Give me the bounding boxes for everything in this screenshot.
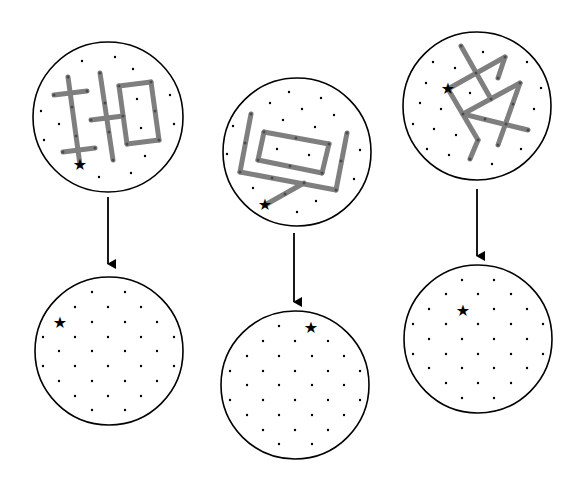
circle-boundary — [404, 265, 552, 413]
circle-boundary — [221, 311, 369, 459]
panel-left-top: ★ — [33, 42, 183, 192]
star-icon: ★ — [73, 155, 87, 174]
star-icon: ★ — [258, 195, 272, 214]
panel-left-bottom: ★ — [35, 277, 183, 425]
star-icon: ★ — [53, 313, 67, 332]
panel-right-bottom: ★ — [404, 265, 552, 413]
panel-right-top: ★ — [403, 32, 551, 180]
panel-middle-top: ★ — [223, 78, 371, 226]
circle-boundary — [35, 277, 183, 425]
panel-middle-bottom: ★ — [221, 311, 369, 459]
star-icon: ★ — [456, 301, 470, 320]
diagram-canvas: ★ ★ — [0, 0, 581, 485]
star-icon: ★ — [441, 79, 455, 98]
star-icon: ★ — [304, 318, 318, 337]
